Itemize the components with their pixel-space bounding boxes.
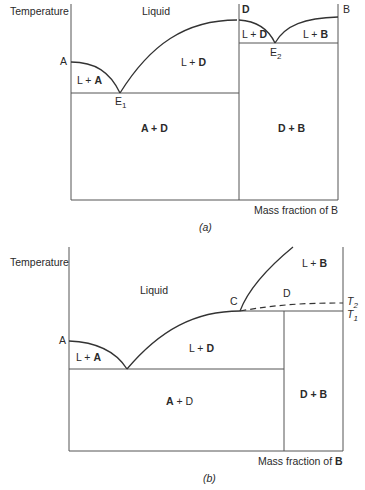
b-point-t1: T1 [347,309,358,320]
a-point-e1: E1 [115,96,126,107]
a-x-axis-label: Mass fraction of B [254,205,338,216]
b-liquidus-e-c [127,311,240,369]
b-point-a: A [59,335,66,346]
b-region-l-plus-b: L + B [302,258,327,269]
a-region-l-plus-d-left: L + D [181,57,206,68]
b-y-axis-label: Temperature [10,257,69,268]
a-point-b: B [343,4,350,15]
b-point-c: C [230,296,238,307]
b-point-t2: T2 [347,296,358,307]
b-region-d-plus-b: D + B [300,389,327,400]
a-point-a: A [60,56,67,67]
b-metastable-dashed [240,303,343,311]
a-point-d: D [242,4,250,15]
b-region-liquid: Liquid [140,285,168,296]
a-region-l-plus-a: L + A [77,75,102,86]
b-liquidus-c-b [240,247,293,311]
a-region-l-plus-d-right: L + D [242,29,267,40]
a-liquidus-e1-d [120,20,237,93]
a-y-axis-label: Temperature [10,6,69,17]
a-region-a-plus-d: A + D [141,123,168,134]
a-region-l-plus-b: L + B [303,29,328,40]
phase-diagram-lines [0,0,365,490]
b-point-d: D [283,288,291,299]
b-x-axis-label: Mass fraction of B [258,456,343,467]
b-caption: (b) [203,473,216,484]
b-region-a-plus-d: A + D [166,396,193,407]
a-point-e2: E2 [270,47,281,58]
a-region-d-plus-b: D + B [278,123,305,134]
a-caption: (a) [199,222,212,233]
a-region-liquid: Liquid [142,6,170,17]
b-region-l-plus-a: L + A [76,352,101,363]
b-region-l-plus-d: L + D [189,343,214,354]
